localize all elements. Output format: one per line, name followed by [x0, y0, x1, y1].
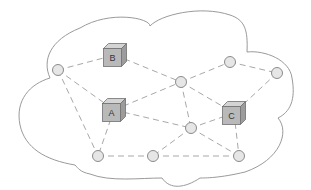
device-label: C [228, 111, 235, 121]
router-node-icon[interactable] [176, 77, 187, 88]
device-label: B [109, 53, 115, 63]
router-node-icon[interactable] [234, 151, 245, 162]
device-cube-a[interactable]: A [103, 99, 126, 122]
router-node-icon[interactable] [272, 68, 283, 79]
device-cube-b[interactable]: B [104, 44, 127, 67]
device-cube-c[interactable]: C [223, 102, 246, 125]
device-label: A [108, 108, 114, 118]
router-node-icon[interactable] [148, 151, 159, 162]
router-node-icon[interactable] [186, 123, 197, 134]
router-node-icon[interactable] [53, 65, 64, 76]
network-diagram: BAC [0, 0, 311, 190]
router-node-icon[interactable] [93, 151, 104, 162]
router-node-icon[interactable] [225, 57, 236, 68]
